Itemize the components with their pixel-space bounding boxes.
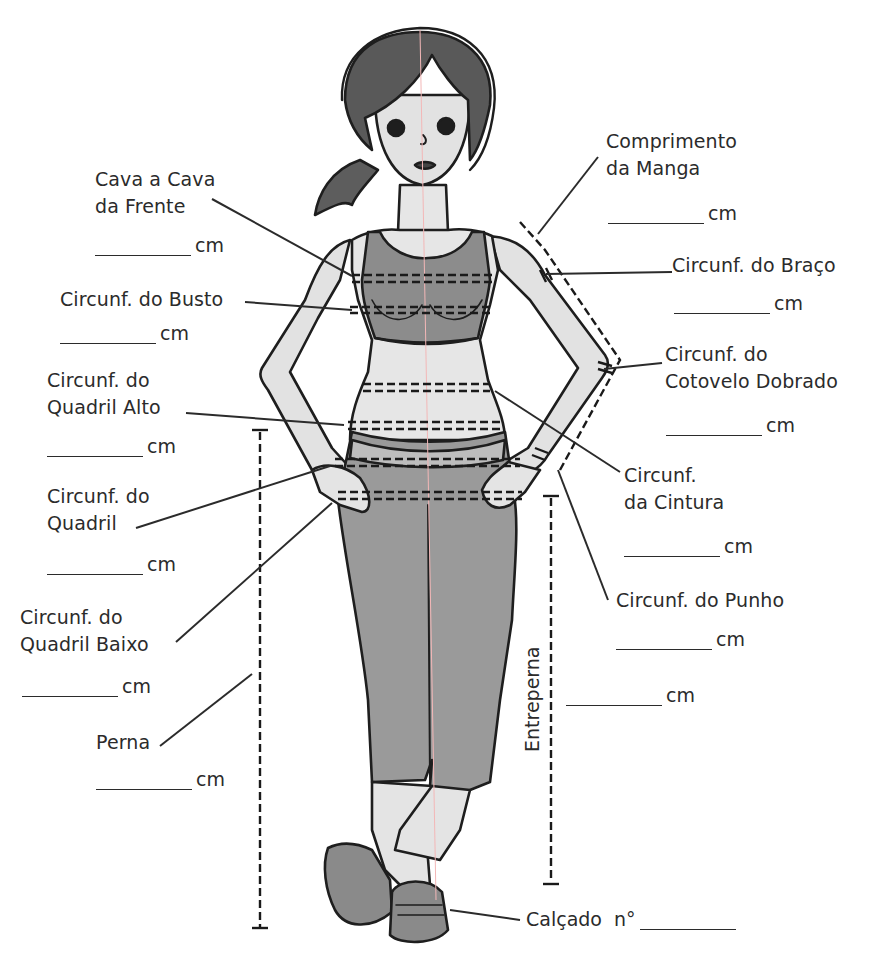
field-entreperna[interactable]: cm <box>566 684 695 706</box>
label-line: Quadril <box>47 510 150 537</box>
field-comprimento-manga[interactable]: cm <box>608 202 737 224</box>
unit-cm: cm <box>774 292 803 314</box>
label-line: Circunf. <box>624 462 724 489</box>
unit-cm: cm <box>195 234 224 256</box>
field-quadril-baixo[interactable]: cm <box>22 675 151 697</box>
label-perna: Perna <box>96 729 150 756</box>
field-braco[interactable]: cm <box>674 292 803 314</box>
leader-cava <box>212 199 352 276</box>
label-line: da Frente <box>95 193 215 220</box>
unit-cm: cm <box>666 684 695 706</box>
label-line: Circunf. do Punho <box>616 587 784 614</box>
label-line: Cava a Cava <box>95 166 215 193</box>
blank-line[interactable] <box>96 775 192 790</box>
right-eye <box>438 118 454 134</box>
label-cava-a-cava: Cava a Cava da Frente <box>95 166 215 220</box>
unit-cm: cm <box>724 535 753 557</box>
blank-line[interactable] <box>616 635 712 650</box>
label-line: Comprimento <box>606 128 737 155</box>
unit-cm: cm <box>716 628 745 650</box>
label-cintura: Circunf. da Cintura <box>624 462 724 516</box>
label-braco: Circunf. do Braço <box>672 252 836 279</box>
label-line: Circunf. do <box>47 367 161 394</box>
leader-punho <box>558 470 608 600</box>
right-shoe <box>390 882 448 942</box>
blank-line[interactable] <box>22 682 118 697</box>
leader-calcado <box>450 910 520 920</box>
leader-quadril-alto <box>186 413 344 425</box>
label-line: Cotovelo Dobrado <box>665 368 838 395</box>
leader-cotovelo <box>604 363 662 369</box>
leader-manga <box>538 157 598 234</box>
label-line: Circunf. do <box>20 604 149 631</box>
blank-line[interactable] <box>624 542 720 557</box>
field-perna[interactable]: cm <box>96 768 225 790</box>
label-line: Quadril Alto <box>47 394 161 421</box>
unit-cm: cm <box>160 322 189 344</box>
unit-cm: cm <box>147 435 176 457</box>
blank-line[interactable] <box>47 442 143 457</box>
leader-quadril-baixo <box>176 503 332 642</box>
label-quadril: Circunf. do Quadril <box>47 483 150 537</box>
field-cotovelo[interactable]: cm <box>666 414 795 436</box>
label-line: Perna <box>96 729 150 756</box>
label-line: da Cintura <box>624 489 724 516</box>
label-cotovelo: Circunf. do Cotovelo Dobrado <box>665 341 838 395</box>
label-line: da Manga <box>606 155 737 182</box>
label-line: Quadril Baixo <box>20 631 149 658</box>
blank-line[interactable] <box>60 329 156 344</box>
blank-line[interactable] <box>608 209 704 224</box>
label-punho: Circunf. do Punho <box>616 587 784 614</box>
label-entreperna: Entreperna <box>521 647 543 753</box>
label-quadril-baixo: Circunf. do Quadril Baixo <box>20 604 149 658</box>
field-quadril[interactable]: cm <box>47 553 176 575</box>
label-busto: Circunf. do Busto <box>60 286 223 313</box>
lips <box>415 162 435 169</box>
leader-quadril <box>136 466 330 528</box>
blank-line[interactable] <box>674 299 770 314</box>
left-arm <box>260 240 352 480</box>
field-quadril-alto[interactable]: cm <box>47 435 176 457</box>
field-punho[interactable]: cm <box>616 628 745 650</box>
field-cava-a-cava[interactable]: cm <box>95 234 224 256</box>
label-calcado: Calçado n° <box>526 908 636 930</box>
field-cintura[interactable]: cm <box>624 535 753 557</box>
leader-perna <box>160 674 252 746</box>
field-calcado[interactable]: Calçado n° <box>526 908 736 930</box>
ponytail <box>315 160 378 215</box>
field-busto[interactable]: cm <box>60 322 189 344</box>
label-line: Circunf. do <box>47 483 150 510</box>
blank-line[interactable] <box>95 241 191 256</box>
unit-cm: cm <box>708 202 737 224</box>
leader-braco <box>546 272 672 274</box>
blank-line[interactable] <box>640 915 736 930</box>
label-line: Circunf. do Busto <box>60 286 223 313</box>
unit-cm: cm <box>766 414 795 436</box>
label-line: Circunf. do Braço <box>672 252 836 279</box>
unit-cm: cm <box>147 553 176 575</box>
unit-cm: cm <box>122 675 151 697</box>
unit-cm: cm <box>196 768 225 790</box>
woman-figure-illustration <box>0 0 882 962</box>
left-eye <box>388 120 404 136</box>
label-quadril-alto: Circunf. do Quadril Alto <box>47 367 161 421</box>
label-line: Circunf. do <box>665 341 838 368</box>
blank-line[interactable] <box>666 421 762 436</box>
label-comprimento-manga: Comprimento da Manga <box>606 128 737 182</box>
blank-line[interactable] <box>566 691 662 706</box>
blank-line[interactable] <box>47 560 143 575</box>
